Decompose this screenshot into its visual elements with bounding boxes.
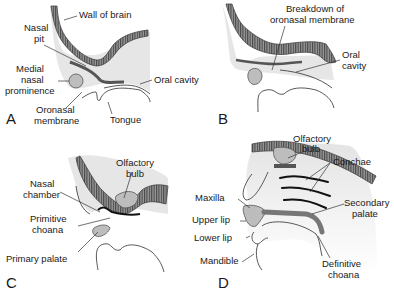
leader-wall-brain-a bbox=[64, 16, 77, 20]
panel-d: Olfactory bulb Conchae Maxilla Secondary… bbox=[192, 133, 390, 291]
label-olfactory-c-1: Olfactory bbox=[116, 157, 154, 168]
label-primary-palate: Primary palate bbox=[6, 253, 67, 264]
label-conchae: Conchae bbox=[333, 156, 371, 167]
mandible-outline-d bbox=[256, 244, 262, 270]
medial-nasal-prominence-a bbox=[69, 74, 83, 88]
label-oral-cavity-a: Oral cavity bbox=[154, 74, 199, 85]
panel-letter-c: C bbox=[6, 274, 17, 291]
label-nasal-pit-2: pit bbox=[34, 33, 44, 44]
label-olfactory-c-2: bulb bbox=[126, 168, 144, 179]
tongue-outline-b bbox=[258, 88, 334, 112]
label-olfactory-d-2: bulb bbox=[302, 143, 320, 154]
label-maxilla: Maxilla bbox=[195, 192, 225, 203]
label-oral-b-2: cavity bbox=[342, 60, 367, 71]
label-lower-lip: Lower lip bbox=[194, 232, 232, 243]
label-nasal-chamber-1: Nasal bbox=[30, 178, 54, 189]
tongue-outline-a bbox=[82, 88, 150, 102]
label-medial-3: prominence bbox=[5, 85, 55, 96]
label-primitive-1: Primitive bbox=[30, 213, 66, 224]
label-upper-lip: Upper lip bbox=[192, 214, 230, 225]
label-primitive-2: choana bbox=[32, 224, 64, 235]
label-secondary-2: palate bbox=[352, 208, 378, 219]
label-oronasal-1: Oronasal bbox=[36, 104, 75, 115]
label-tongue: Tongue bbox=[110, 114, 141, 125]
panel-letter-b: B bbox=[218, 110, 228, 127]
panel-b: Breakdown of oronasal membrane Oral cavi… bbox=[218, 3, 367, 127]
label-medial-2: nasal bbox=[21, 74, 44, 85]
leader-tongue-a bbox=[108, 102, 112, 114]
panel-a: Wall of brain Nasal pit Medial nasal pro… bbox=[5, 6, 199, 127]
label-breakdown-2: oronasal membrane bbox=[270, 14, 355, 25]
label-oral-b-1: Oral bbox=[342, 49, 360, 60]
leader-primary-palate-c bbox=[78, 232, 98, 252]
label-wall-of-brain: Wall of brain bbox=[79, 9, 131, 20]
medial-prominence-b bbox=[248, 68, 262, 84]
label-definitive-1: Definitive bbox=[322, 258, 361, 269]
tongue-outline-c bbox=[96, 244, 164, 272]
leader-lower-lip-d bbox=[246, 236, 250, 238]
label-oronasal-2: membrane bbox=[34, 115, 79, 126]
label-mandible: Mandible bbox=[200, 255, 239, 266]
label-breakdown-1: Breakdown of bbox=[286, 3, 344, 14]
label-nasal-chamber-2: chamber bbox=[23, 189, 60, 200]
panel-letter-d: D bbox=[218, 274, 229, 291]
label-secondary-1: Secondary bbox=[344, 197, 390, 208]
label-nasal-pit-1: Nasal bbox=[24, 22, 48, 33]
panel-letter-a: A bbox=[6, 110, 16, 127]
nasal-development-diagram: Wall of brain Nasal pit Medial nasal pro… bbox=[0, 0, 394, 295]
label-definitive-2: choana bbox=[328, 269, 360, 280]
panel-c: Olfactory bulb Nasal chamber Primitive c… bbox=[6, 155, 168, 291]
label-medial-1: Medial bbox=[16, 63, 44, 74]
leader-mandible-d bbox=[242, 254, 254, 262]
